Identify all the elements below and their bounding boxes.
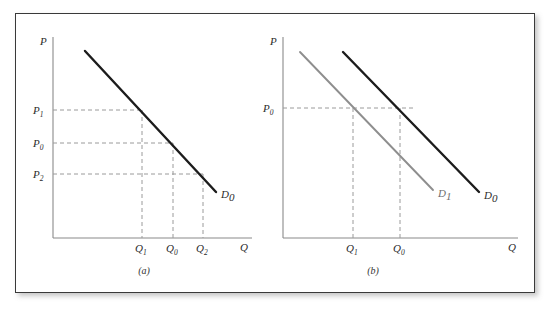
panel-a-curve-label-d0: D0 bbox=[220, 188, 235, 203]
panel-a-quantity-label-q2: Q2 bbox=[196, 242, 208, 257]
panel-b-x-axis-label: Q bbox=[508, 241, 516, 253]
panel-a-x-axis-label: Q bbox=[240, 241, 248, 253]
panel-b-y-axis-label: P bbox=[269, 35, 277, 47]
panel-a-y-axis-label: P bbox=[39, 35, 47, 47]
panel-a-price-label-p1: P1 bbox=[32, 104, 43, 119]
panel-b-caption: (b) bbox=[367, 265, 379, 277]
panel-a-price-label-p0: P0 bbox=[32, 137, 44, 152]
panel-b-curve-label-d0: D0 bbox=[483, 189, 498, 204]
figure-root: P Q P1 P0 P2 Q1 Q0 Q2 bbox=[0, 0, 557, 313]
panel-b-demand-curve-d0 bbox=[343, 52, 479, 192]
panel-a-quantity-label-q1: Q1 bbox=[135, 242, 147, 257]
panel-a-demand-curve-d0 bbox=[85, 51, 216, 192]
figure-canvas: P Q P1 P0 P2 Q1 Q0 Q2 bbox=[0, 0, 557, 313]
panel-b-quantity-label-q1: Q1 bbox=[346, 242, 358, 257]
panel-b: P Q P0 Q1 Q0 D1 D0 (b) bbox=[262, 35, 518, 277]
panel-a-price-label-p2: P2 bbox=[32, 168, 44, 183]
panel-b-demand-curve-d1 bbox=[300, 52, 433, 190]
panel-b-curve-label-d1: D1 bbox=[437, 187, 451, 202]
panel-a-caption: (a) bbox=[138, 265, 150, 277]
panel-b-price-label-p0: P0 bbox=[262, 102, 274, 117]
panel-b-quantity-label-q0: Q0 bbox=[393, 242, 405, 257]
panel-a: P Q P1 P0 P2 Q1 Q0 Q2 bbox=[32, 35, 252, 277]
panel-a-quantity-label-q0: Q0 bbox=[166, 242, 178, 257]
